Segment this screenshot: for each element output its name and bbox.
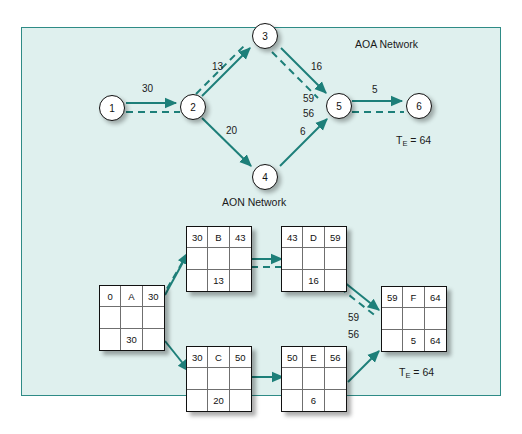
aoa-label-edge-1-2: 30 <box>142 84 153 94</box>
aon-d-m3 <box>325 248 346 269</box>
aon-box-activity-c[interactable]: 30 C 50 20 <box>186 346 252 412</box>
aon-d-id: D <box>303 227 324 248</box>
aoa-node-5-label: 5 <box>336 101 342 112</box>
aon-a-m3 <box>143 307 164 328</box>
aoa-node-3[interactable]: 3 <box>252 23 278 49</box>
aoa-label-edge-3-5: 16 <box>311 62 322 72</box>
aon-c-lf <box>230 390 251 411</box>
aon-network-title: AON Network <box>222 196 286 208</box>
aon-f-id: F <box>403 287 424 308</box>
aoa-te-subscript: E <box>402 139 407 148</box>
aon-e-m3 <box>325 368 346 389</box>
aon-b-es: 30 <box>187 227 208 248</box>
aoa-node-1[interactable]: 1 <box>99 95 125 121</box>
aon-d-ef: 59 <box>325 227 346 248</box>
aon-e-id: E <box>303 347 324 368</box>
aon-box-activity-f[interactable]: 59 F 64 5 64 <box>381 286 447 352</box>
aoa-node-3-label: 3 <box>262 31 268 42</box>
aoa-te-annotation: TE = 64 <box>396 134 431 146</box>
aon-f-m2 <box>403 308 424 329</box>
aon-e-lf <box>325 390 346 411</box>
aoa-label-edge-2-4: 20 <box>226 126 237 136</box>
aon-label-f-late: 56 <box>348 330 359 340</box>
aon-d-m2 <box>303 248 324 269</box>
aon-c-m3 <box>230 368 251 389</box>
aon-te-subscript: E <box>405 371 410 380</box>
aon-f-ls <box>382 330 403 351</box>
figure-canvas: 1 2 3 4 5 6 30 13 16 20 6 5 59 56 AOA Ne… <box>0 0 522 434</box>
aon-e-ef: 56 <box>325 347 346 368</box>
aoa-label-edge-5-6: 5 <box>372 85 378 95</box>
aoa-node-2[interactable]: 2 <box>180 94 206 120</box>
aoa-node-6-label: 6 <box>416 101 422 112</box>
aon-te-value: = 64 <box>413 366 434 378</box>
aon-a-id: A <box>121 286 142 307</box>
aon-label-f-early: 59 <box>348 313 359 323</box>
aon-f-dur: 5 <box>403 330 424 351</box>
aoa-label-edge-4-5: 6 <box>300 127 306 137</box>
aon-c-dur: 20 <box>208 390 229 411</box>
aon-a-lf <box>143 329 164 350</box>
aon-c-m1 <box>187 368 208 389</box>
aon-b-m1 <box>187 248 208 269</box>
aon-d-es: 43 <box>282 227 303 248</box>
aon-c-id: C <box>208 347 229 368</box>
aon-e-m1 <box>282 368 303 389</box>
aoa-node-4-label: 4 <box>262 172 268 183</box>
aoa-node-2-label: 2 <box>190 102 196 113</box>
aon-e-ls <box>282 390 303 411</box>
aon-box-activity-b[interactable]: 30 B 43 13 <box>186 226 252 292</box>
aon-a-dur: 30 <box>121 329 142 350</box>
aon-d-lf <box>325 270 346 291</box>
aon-b-ef: 43 <box>230 227 251 248</box>
aon-b-id: B <box>208 227 229 248</box>
aon-b-m2 <box>208 248 229 269</box>
aon-b-ls <box>187 270 208 291</box>
aon-d-m1 <box>282 248 303 269</box>
aon-f-m1 <box>382 308 403 329</box>
aon-a-ls <box>100 329 121 350</box>
aoa-node-4[interactable]: 4 <box>252 164 278 190</box>
aoa-label-node-5-late: 56 <box>303 109 314 119</box>
aon-a-es: 0 <box>100 286 121 307</box>
aoa-node-1-label: 1 <box>109 103 115 114</box>
aon-box-activity-e[interactable]: 50 E 56 6 <box>281 346 347 412</box>
aon-c-es: 30 <box>187 347 208 368</box>
aon-e-m2 <box>303 368 324 389</box>
aon-b-dur: 13 <box>208 270 229 291</box>
aon-d-ls <box>282 270 303 291</box>
aon-b-lf <box>230 270 251 291</box>
aon-te-annotation: TE = 64 <box>399 366 434 378</box>
aon-f-es: 59 <box>382 287 403 308</box>
aoa-node-5[interactable]: 5 <box>326 93 352 119</box>
aon-c-ls <box>187 390 208 411</box>
aon-c-m2 <box>208 368 229 389</box>
aon-e-es: 50 <box>282 347 303 368</box>
aon-b-m3 <box>230 248 251 269</box>
aon-a-m1 <box>100 307 121 328</box>
aon-f-ef: 64 <box>425 287 446 308</box>
aon-box-activity-d[interactable]: 43 D 59 16 <box>281 226 347 292</box>
aon-box-activity-a[interactable]: 0 A 30 30 <box>99 285 165 351</box>
aon-a-m2 <box>121 307 142 328</box>
aoa-label-edge-2-3: 13 <box>212 62 223 72</box>
aon-c-ef: 50 <box>230 347 251 368</box>
aoa-network-title: AOA Network <box>355 38 418 50</box>
aoa-node-6[interactable]: 6 <box>406 93 432 119</box>
aon-f-lf: 64 <box>425 330 446 351</box>
aon-d-dur: 16 <box>303 270 324 291</box>
aoa-label-node-5-early: 59 <box>303 94 314 104</box>
aon-a-ef: 30 <box>143 286 164 307</box>
aon-f-m3 <box>425 308 446 329</box>
aoa-te-value: = 64 <box>410 134 431 146</box>
aon-e-dur: 6 <box>303 390 324 411</box>
